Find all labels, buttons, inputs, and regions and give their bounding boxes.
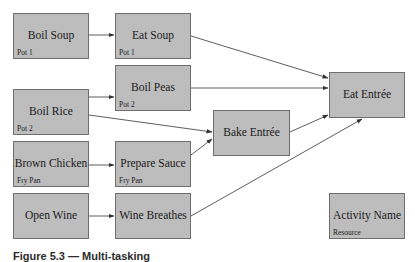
edge-bake-entree-to-eat-entree bbox=[290, 115, 328, 132]
node-label: Eat Entrée bbox=[330, 88, 404, 100]
node-label: Boil Rice bbox=[14, 105, 88, 117]
node-label: Bake Entrée bbox=[214, 126, 289, 138]
node-prepare-sauce: Prepare Sauce Fry Pan bbox=[115, 141, 191, 187]
node-label: Brown Chicken bbox=[14, 157, 88, 169]
node-eat-entree: Eat Entrée bbox=[329, 72, 405, 118]
node-resource: Fry Pan bbox=[119, 176, 143, 185]
figure-caption: Figure 5.3 — Multi-tasking bbox=[13, 250, 150, 262]
edge-prepare-sauce-to-bake-entree bbox=[191, 139, 212, 155]
node-label: Wine Breathes bbox=[116, 209, 190, 221]
node-resource: Pot 1 bbox=[17, 48, 33, 57]
node-label: Boil Soup bbox=[14, 29, 88, 41]
node-eat-soup: Eat Soup Pot 1 bbox=[115, 13, 191, 59]
node-resource: Pot 2 bbox=[119, 100, 135, 109]
node-open-wine: Open Wine bbox=[13, 193, 89, 239]
node-label: Open Wine bbox=[14, 209, 88, 221]
node-resource: Pot 1 bbox=[119, 48, 135, 57]
legend-resource: Resource bbox=[333, 228, 361, 237]
node-brown-chicken: Brown Chicken Fry Pan bbox=[13, 141, 89, 187]
node-resource: Pot 2 bbox=[17, 124, 33, 133]
node-boil-soup: Boil Soup Pot 1 bbox=[13, 13, 89, 59]
node-boil-rice: Boil Rice Pot 2 bbox=[13, 89, 89, 135]
legend-node: Activity Name Resource bbox=[329, 193, 405, 239]
node-label: Eat Soup bbox=[116, 29, 190, 41]
edge-eat-soup-to-eat-entree bbox=[191, 36, 328, 78]
node-label: Boil Peas bbox=[116, 81, 190, 93]
node-boil-peas: Boil Peas Pot 2 bbox=[115, 65, 191, 111]
node-resource: Fry Pan bbox=[17, 176, 41, 185]
node-label: Prepare Sauce bbox=[116, 157, 190, 169]
legend-label: Activity Name bbox=[330, 209, 404, 221]
node-bake-entree: Bake Entrée bbox=[213, 110, 290, 156]
node-wine-breathes: Wine Breathes bbox=[115, 193, 191, 239]
edge-boil-rice-to-bake-entree bbox=[89, 115, 212, 132]
